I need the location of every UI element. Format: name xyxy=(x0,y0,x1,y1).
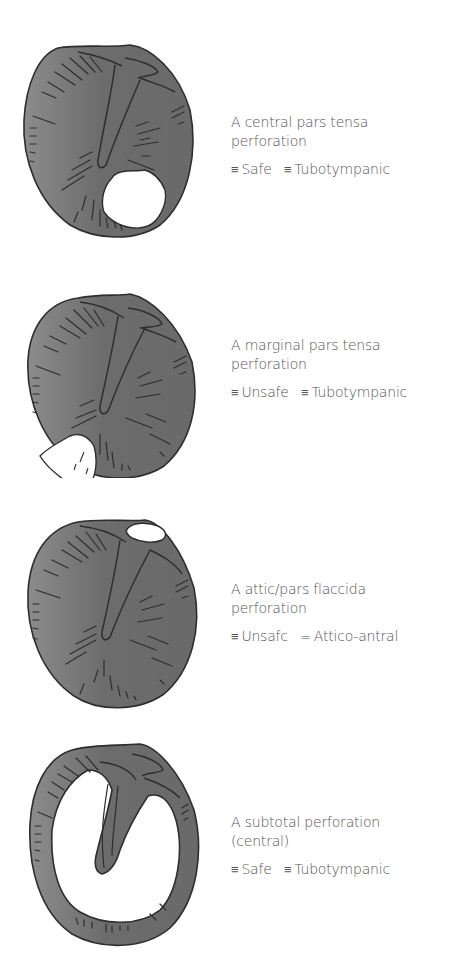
safety-label: Unsafe xyxy=(241,384,288,400)
type-tag: ≡Tubotympanic xyxy=(301,384,407,400)
safety-label: Safe xyxy=(241,161,271,177)
type-label: Tubotympanic xyxy=(294,861,390,877)
caption-title-line1: A marginal pars tensa xyxy=(231,336,415,355)
type-tag: =Attico-antral xyxy=(300,628,398,644)
caption-title-line1: A subtotal perforation xyxy=(231,813,398,832)
classification-tags: ≡Unsafe ≡Tubotympanic xyxy=(231,383,415,402)
safety-tag: ≡Safe xyxy=(231,161,272,177)
caption-subtotal-perforation: A subtotal perforation (central) ≡Safe ≡… xyxy=(231,813,398,879)
classification-tags: ≡Safe ≡Tubotympanic xyxy=(231,860,398,879)
caption-title-line2: (central) xyxy=(231,832,398,851)
panel-subtotal-perforation: A subtotal perforation (central) ≡Safe ≡… xyxy=(0,700,450,970)
tympanic-membrane-subtotal-perforation-illustration xyxy=(0,700,225,970)
triple-bar-icon: ≡ xyxy=(301,385,308,400)
caption-attic-perforation: A attic/pars flaccida perforation ≡Unsaf… xyxy=(231,580,406,646)
caption-title-line1: A attic/pars flaccida xyxy=(231,580,406,599)
type-label: Attico-antral xyxy=(314,628,398,644)
caption-title-line2: perforation xyxy=(231,599,406,618)
caption-title-line1: A central pars tensa xyxy=(231,113,398,132)
tympanic-membrane-central-perforation-illustration xyxy=(0,0,225,240)
classification-tags: ≡Safe ≡Tubotympanic xyxy=(231,160,398,179)
safety-tag: ≡Unsafc xyxy=(231,628,288,644)
safety-tag: ≡Safe xyxy=(231,861,272,877)
triple-bar-icon: ≡ xyxy=(231,162,238,177)
classification-tags: ≡Unsafc =Attico-antral xyxy=(231,627,406,646)
panel-marginal-perforation: A marginal pars tensa perforation ≡Unsaf… xyxy=(0,238,450,478)
triple-bar-icon: ≡ xyxy=(231,385,238,400)
safety-label: Safe xyxy=(241,861,271,877)
type-label: Tubotympanic xyxy=(294,161,390,177)
panel-central-perforation: A central pars tensa perforation ≡Safe ≡… xyxy=(0,0,450,240)
caption-central-perforation: A central pars tensa perforation ≡Safe ≡… xyxy=(231,113,398,179)
type-label: Tubotympanic xyxy=(311,384,407,400)
tympanic-membrane-marginal-perforation-illustration xyxy=(0,238,225,478)
triple-bar-icon: ≡ xyxy=(231,629,238,644)
triple-bar-icon: ≡ xyxy=(284,162,291,177)
double-bar-icon: = xyxy=(300,629,311,644)
caption-title-line2: perforation xyxy=(231,355,415,374)
tympanic-membrane-attic-perforation-illustration xyxy=(0,470,225,710)
type-tag: ≡Tubotympanic xyxy=(284,861,390,877)
panel-attic-perforation: A attic/pars flaccida perforation ≡Unsaf… xyxy=(0,470,450,710)
caption-title-line2: perforation xyxy=(231,132,398,151)
safety-tag: ≡Unsafe xyxy=(231,384,289,400)
triple-bar-icon: ≡ xyxy=(231,862,238,877)
triple-bar-icon: ≡ xyxy=(284,862,291,877)
caption-marginal-perforation: A marginal pars tensa perforation ≡Unsaf… xyxy=(231,336,415,402)
type-tag: ≡Tubotympanic xyxy=(284,161,390,177)
safety-label: Unsafc xyxy=(241,628,287,644)
